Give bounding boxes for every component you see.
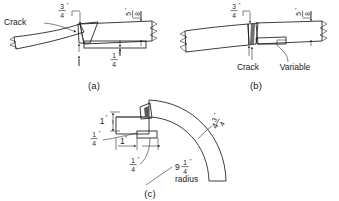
panel-c-radius-label: radius — [175, 174, 198, 184]
panel-c-dim-434-label: 4 3 4 ″ — [207, 112, 228, 132]
svg-text:″: ″ — [106, 114, 108, 120]
panel-a-caption: (a) — [88, 80, 100, 91]
svg-text:4: 4 — [131, 166, 135, 173]
panel-c-radius-dim-label: 9 1 4 ″ — [175, 158, 192, 175]
panel-c-weld-notch — [144, 106, 149, 117]
panel-b-crack-label: Crack — [237, 62, 260, 72]
svg-text:8: 8 — [134, 12, 141, 16]
panel-c-dim-1in-label: 1 ″ — [100, 114, 108, 126]
svg-text:″: ″ — [138, 156, 140, 162]
panel-b-caption: (b) — [250, 80, 262, 91]
svg-text:″: ″ — [125, 135, 127, 141]
svg-text:5: 5 — [295, 12, 302, 16]
panel-c-curved-arm — [149, 100, 232, 182]
svg-text:3: 3 — [232, 3, 236, 10]
panel-c-dim-14b-label: 1 4 ″ — [130, 156, 140, 173]
svg-text:″: ″ — [67, 2, 69, 8]
svg-text:1: 1 — [183, 159, 187, 166]
svg-text:1: 1 — [92, 131, 96, 138]
panel-a-lower-member — [14, 24, 84, 49]
panel-a-joint-gap-line — [80, 24, 84, 44]
panel-b: 3 4 ″ 5 8 ″ Crack Variable (b) — [180, 2, 327, 91]
svg-text:5: 5 — [125, 12, 132, 16]
svg-text:1: 1 — [131, 157, 135, 164]
panel-a-dim-34-label: 3 4 ″ — [59, 2, 69, 19]
panel-b-right-member — [256, 21, 322, 44]
svg-text:9: 9 — [175, 162, 180, 172]
panel-c-root-land — [137, 131, 157, 138]
svg-text:4: 4 — [60, 12, 64, 19]
weld-repair-diagram: Crack 3 4 ″ 1 4 ″ 5 8 — [0, 0, 339, 201]
svg-text:1: 1 — [100, 116, 105, 126]
panel-a-dim-34-extension — [72, 11, 80, 16]
panel-c-caption: (c) — [144, 188, 156, 199]
panel-a-dim-14-label: 1 4 ″ — [111, 51, 121, 68]
panel-b-weld-bead-inner — [250, 24, 255, 45]
svg-text:″: ″ — [212, 112, 218, 117]
svg-text:8: 8 — [304, 12, 311, 16]
svg-text:″: ″ — [239, 2, 241, 8]
svg-text:″: ″ — [294, 7, 300, 9]
panel-c-straight-leg — [116, 117, 149, 134]
panel-b-dim-34-label: 3 4 ″ — [231, 2, 241, 19]
panel-c-dim-14b-leader — [140, 138, 150, 164]
svg-text:3: 3 — [60, 3, 64, 10]
svg-text:1: 1 — [112, 52, 116, 59]
panel-c-dim-14-label: 1 4 ″ — [91, 130, 101, 147]
panel-a-crack-label: Crack — [4, 17, 27, 27]
svg-text:″: ″ — [124, 7, 130, 9]
svg-text:″: ″ — [99, 130, 101, 136]
panel-a-dim-58-label: 5 8 ″ — [124, 7, 141, 17]
panel-b-dim-58-label: 5 8 ″ — [294, 7, 311, 17]
panel-a-upper-break-mark — [150, 21, 157, 41]
panel-a: Crack 3 4 ″ 1 4 ″ 5 8 — [4, 2, 157, 91]
panel-a-crack-leader — [44, 23, 76, 32]
svg-text:4: 4 — [92, 140, 96, 147]
svg-text:″: ″ — [190, 158, 192, 164]
svg-text:4: 4 — [112, 61, 116, 68]
panel-c-curved-arm-band — [149, 100, 226, 181]
panel-b-variable-leader — [277, 45, 288, 62]
panel-c-radius-leader — [146, 167, 172, 185]
panel-b-right-break-mark — [320, 21, 327, 41]
panel-c: 1 ″ 1 4 ″ 1 ″ 1 4 ″ — [91, 100, 232, 199]
panel-c-dim-bot-1in-label: 1 ″ — [120, 135, 127, 146]
panel-b-lower-member — [185, 24, 249, 52]
svg-text:4: 4 — [232, 12, 236, 19]
panel-b-dim-34-extension — [243, 11, 250, 16]
panel-b-variable-label: Variable — [280, 62, 311, 72]
svg-text:″: ″ — [119, 51, 121, 57]
